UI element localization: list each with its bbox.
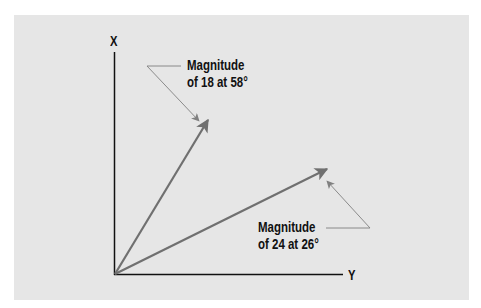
callout-label-2: Magnitude of 24 at 26°: [258, 219, 319, 253]
vector-diagram: [0, 0, 481, 308]
callout-label-1: Magnitude of 18 at 58°: [187, 57, 248, 91]
callout-2-line1: Magnitude: [258, 219, 319, 236]
callout-line-2: [326, 181, 370, 228]
callout-1-line1: Magnitude: [187, 57, 248, 74]
callout-2-line2: of 24 at 26°: [258, 236, 319, 253]
x-axis-label: X: [110, 33, 117, 49]
callout-1-line2: of 18 at 58°: [187, 74, 248, 91]
y-axis-label: Y: [348, 267, 355, 283]
